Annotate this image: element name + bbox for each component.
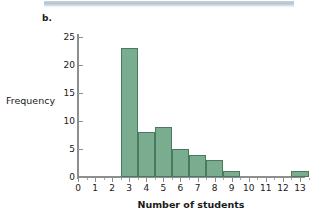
x-axis-tick <box>95 178 96 182</box>
x-axis-minor-tick <box>104 178 105 180</box>
x-axis-minor-tick <box>206 178 207 180</box>
x-axis-minor-tick <box>291 178 292 180</box>
y-axis-tick <box>79 65 83 66</box>
x-axis-tick-label: 10 <box>240 184 258 193</box>
x-axis-minor-tick <box>223 178 224 180</box>
x-axis-tick <box>300 178 301 182</box>
x-axis-tick-label: 9 <box>223 184 241 193</box>
x-axis-tick-label: 13 <box>291 184 309 193</box>
y-axis-tick <box>79 177 83 178</box>
histogram-bar <box>206 160 223 177</box>
y-axis-tick-label: 20 <box>53 61 75 70</box>
x-axis-tick-label: 8 <box>206 184 224 193</box>
y-axis-line <box>77 34 79 179</box>
x-axis-tick <box>266 178 267 182</box>
y-axis-tick-label: 0 <box>53 173 75 182</box>
x-axis-tick <box>163 178 164 182</box>
x-axis-minor-tick <box>138 178 139 180</box>
histogram-bar <box>223 171 240 177</box>
x-axis-tick <box>180 178 181 182</box>
y-axis-tick-label: 10 <box>53 117 75 126</box>
x-axis-tick-label: 4 <box>137 184 155 193</box>
x-axis-tick <box>112 178 113 182</box>
y-axis-tick-label: 15 <box>53 89 75 98</box>
x-axis-tick <box>232 178 233 182</box>
y-axis-tick <box>79 93 83 94</box>
x-axis-tick-label: 12 <box>274 184 292 193</box>
y-axis-tick <box>79 121 83 122</box>
x-axis-tick-label: 11 <box>257 184 275 193</box>
x-axis-tick-label: 0 <box>69 184 87 193</box>
x-axis-tick <box>249 178 250 182</box>
y-axis-tick-label: 25 <box>53 33 75 42</box>
x-axis-minor-tick <box>257 178 258 180</box>
x-axis-minor-tick <box>121 178 122 180</box>
x-axis-tick <box>283 178 284 182</box>
x-axis-minor-tick <box>87 178 88 180</box>
histogram-bar <box>155 127 172 177</box>
x-axis-tick <box>198 178 199 182</box>
y-axis-tick <box>79 37 83 38</box>
x-axis-title: Number of students <box>77 199 305 210</box>
x-axis-minor-tick <box>172 178 173 180</box>
x-axis-minor-tick <box>274 178 275 180</box>
x-axis-tick-label: 6 <box>171 184 189 193</box>
x-axis-tick-label: 5 <box>154 184 172 193</box>
x-axis-tick <box>215 178 216 182</box>
x-axis-tick-label: 1 <box>86 184 104 193</box>
histogram-bar <box>189 155 206 177</box>
histogram-bar <box>138 132 155 177</box>
x-axis-tick <box>78 178 79 182</box>
x-axis-minor-tick <box>155 178 156 180</box>
y-axis-tick <box>79 149 83 150</box>
x-axis-minor-tick <box>189 178 190 180</box>
histogram-bar <box>121 48 138 177</box>
x-axis-minor-tick <box>240 178 241 180</box>
x-axis-tick <box>146 178 147 182</box>
histogram-plot: 0510152025012345678910111213 <box>0 0 323 221</box>
histogram-bar <box>291 171 308 177</box>
x-axis-tick-label: 7 <box>189 184 207 193</box>
x-axis-minor-tick <box>309 178 310 180</box>
x-axis-tick-label: 3 <box>120 184 138 193</box>
x-axis-tick <box>129 178 130 182</box>
x-axis-tick-label: 2 <box>103 184 121 193</box>
y-axis-tick-label: 5 <box>53 145 75 154</box>
y-axis-title: Frequency <box>6 95 55 106</box>
histogram-bar <box>172 149 189 177</box>
